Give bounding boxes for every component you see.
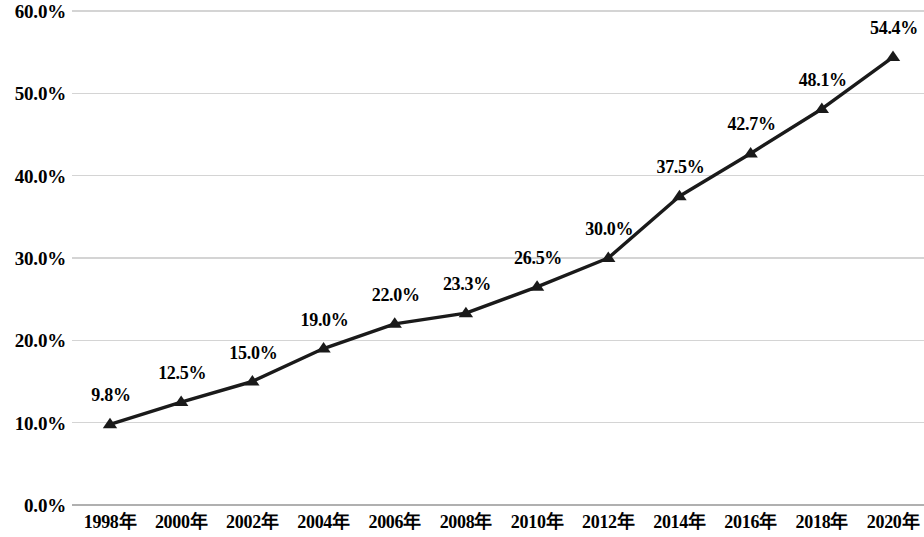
data-point-label: 48.1% <box>799 71 847 89</box>
x-axis-tick-label: 1998年 <box>84 511 137 534</box>
y-axis-tick-label: 20.0% <box>0 331 66 350</box>
data-point-label: 54.4% <box>870 19 918 37</box>
x-axis-tick-label: 2008年 <box>440 511 493 534</box>
data-point-marker <box>886 51 900 62</box>
line-chart: 60.0%50.0%40.0%30.0%20.0%10.0%0.0% 9.8%1… <box>0 0 924 537</box>
data-point-label: 12.5% <box>158 364 206 382</box>
data-point-label: 22.0% <box>372 286 420 304</box>
y-axis: 60.0%50.0%40.0%30.0%20.0%10.0%0.0% <box>0 0 66 537</box>
y-axis-tick-label: 10.0% <box>0 414 66 433</box>
x-axis-tick-label: 2012年 <box>582 511 635 534</box>
chart-canvas <box>0 0 924 537</box>
x-axis-tick-label: 2010年 <box>511 511 564 534</box>
data-point-label: 23.3% <box>443 275 491 293</box>
x-axis-tick-label: 2004年 <box>297 511 350 534</box>
x-axis-tick-label: 2016年 <box>724 511 777 534</box>
y-axis-tick-label: 50.0% <box>0 84 66 103</box>
y-axis-tick-label: 40.0% <box>0 167 66 186</box>
y-axis-tick-label: 60.0% <box>0 2 66 21</box>
x-axis-tick-label: 2006年 <box>368 511 421 534</box>
data-point-label: 42.7% <box>728 115 776 133</box>
data-point-label: 37.5% <box>656 158 704 176</box>
data-point-label: 15.0% <box>229 344 277 362</box>
x-axis: 1998年2000年2002年2004年2006年2008年2010年2012年… <box>0 511 924 537</box>
data-point-label: 19.0% <box>301 311 349 329</box>
x-axis-tick-label: 2014年 <box>653 511 706 534</box>
data-point-label: 9.8% <box>91 386 130 404</box>
series-markers <box>103 51 900 429</box>
gridlines <box>72 11 924 505</box>
x-axis-tick-label: 2002年 <box>226 511 279 534</box>
series-line <box>110 57 893 424</box>
data-point-label: 26.5% <box>514 249 562 267</box>
data-point-label: 30.0% <box>585 220 633 238</box>
series-path <box>110 57 893 424</box>
x-axis-tick-label: 2018年 <box>796 511 849 534</box>
y-axis-tick-label: 30.0% <box>0 249 66 268</box>
x-axis-tick-label: 2020年 <box>867 511 920 534</box>
x-axis-tick-label: 2000年 <box>155 511 208 534</box>
